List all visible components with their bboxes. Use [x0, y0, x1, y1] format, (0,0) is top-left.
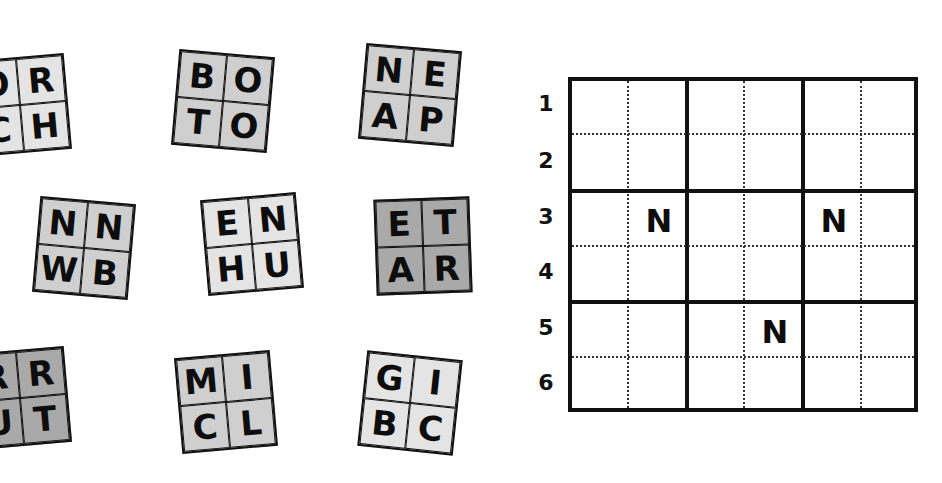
tile-letter: T	[421, 198, 469, 246]
tile-letter: R	[16, 55, 66, 105]
tile-letter: L	[226, 398, 276, 448]
letter-tile-2[interactable]: B O T O	[171, 49, 275, 153]
tile-letter: N	[364, 45, 414, 95]
tile-letter: E	[410, 49, 460, 99]
letter-tile-3[interactable]: N E A P	[358, 43, 462, 147]
row-label-6: 6	[536, 370, 556, 395]
letter-tile-9[interactable]: G I B C	[357, 350, 463, 456]
row-label-4: 4	[536, 259, 556, 284]
tile-letter: W	[34, 244, 84, 294]
tile-letter: C	[180, 402, 230, 452]
tile-letter: N	[38, 198, 88, 248]
tile-letter: N	[84, 202, 134, 252]
tile-letter: A	[377, 246, 425, 294]
letter-tile-8[interactable]: M I C L	[174, 350, 278, 454]
tile-letter: I	[222, 352, 272, 402]
grid-dotted-line	[572, 133, 914, 135]
letter-tile-6[interactable]: E T A R	[373, 196, 472, 295]
tile-letter: I	[410, 357, 461, 408]
grid-block-line	[572, 300, 914, 304]
tile-letter: B	[177, 51, 227, 101]
tile-letter: A	[360, 91, 410, 141]
tile-letter: N	[248, 194, 298, 244]
letter-tile-7[interactable]: R R U T	[0, 346, 72, 450]
tile-letter: R	[16, 348, 66, 398]
tile-letter: T	[173, 97, 223, 147]
letter-tile-1[interactable]: O R C H	[0, 53, 72, 157]
tile-letter: T	[20, 394, 70, 444]
tile-letter: M	[176, 356, 226, 406]
tile-letter: O	[219, 101, 269, 151]
letter-tile-5[interactable]: E N H U	[200, 192, 304, 296]
tile-letter: C	[405, 403, 456, 454]
letter-tile-4[interactable]: N N W B	[32, 196, 136, 300]
row-label-3: 3	[536, 204, 556, 229]
puzzle-grid[interactable]: N N N	[568, 77, 918, 412]
tile-letter: H	[206, 244, 256, 294]
tile-letter: U	[252, 240, 302, 290]
tile-letter: O	[223, 55, 273, 105]
grid-dotted-line	[572, 356, 914, 358]
tile-letter: R	[423, 244, 471, 292]
grid-cell-r5c4[interactable]: N	[746, 304, 804, 360]
tile-letter: B	[80, 248, 130, 298]
tile-letter: G	[364, 352, 415, 403]
row-label-2: 2	[536, 148, 556, 173]
tile-letter: B	[359, 398, 410, 449]
row-label-5: 5	[536, 315, 556, 340]
tile-letter: P	[406, 95, 456, 145]
row-label-1: 1	[536, 91, 556, 116]
tile-letter: E	[202, 198, 252, 248]
grid-cell-r3c5[interactable]: N	[805, 193, 863, 249]
grid-cell-r3c2[interactable]: N	[630, 193, 688, 249]
tile-letter: H	[20, 101, 70, 151]
tile-letter: E	[375, 200, 423, 248]
